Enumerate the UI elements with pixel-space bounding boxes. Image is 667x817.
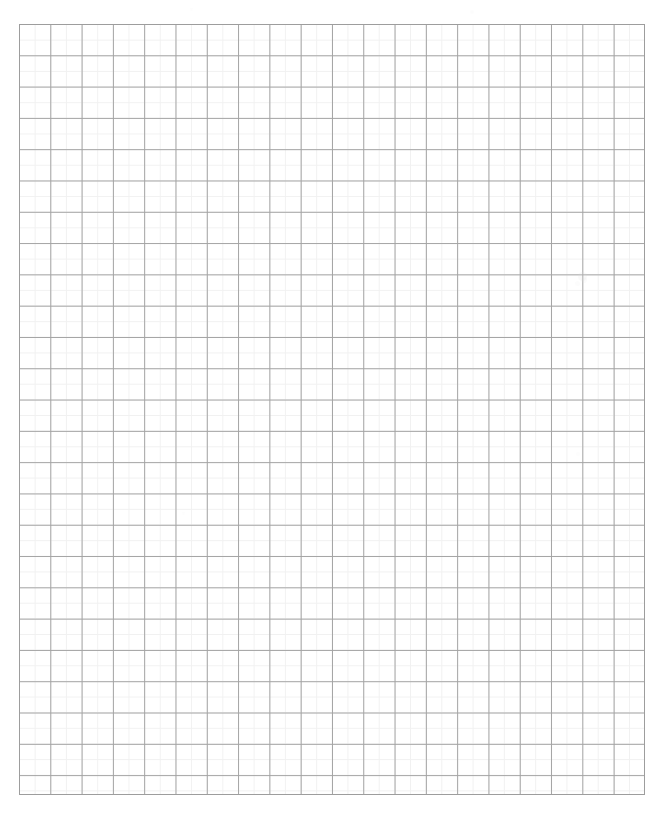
paper-sheet: [0, 0, 667, 817]
grid-major-lines: [19, 24, 645, 795]
paper-speck: [470, 10, 474, 14]
paper-speckle-layer: [19, 24, 645, 795]
paper-speck: [300, 178, 303, 181]
paper-speck: [578, 272, 587, 281]
grid-minor-lines: [19, 24, 645, 795]
paper-speck: [576, 452, 580, 456]
grid-border-frame: [19, 24, 645, 795]
paper-speck: [190, 8, 193, 11]
paper-speck: [182, 512, 185, 515]
paper-speck: [581, 277, 587, 283]
graph-paper-grid: [19, 24, 645, 795]
paper-speck: [575, 281, 580, 286]
